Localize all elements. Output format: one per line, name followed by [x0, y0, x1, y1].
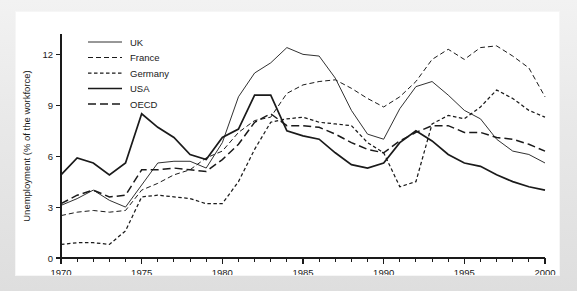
figure-frame: 036912 1970197519801985199019952000 UKFr…	[0, 0, 577, 291]
line-chart: 036912 1970197519801985199019952000 UKFr…	[16, 12, 559, 275]
x-tick-label: 1985	[292, 267, 313, 275]
legend-label-germany: Germany	[130, 68, 169, 79]
legend-label-france: France	[130, 52, 160, 63]
chart-legend: UKFranceGermanyUSAOECD	[88, 37, 169, 110]
series-line-oecd	[61, 114, 545, 204]
legend-label-usa: USA	[130, 83, 150, 94]
chart-panel: 036912 1970197519801985199019952000 UKFr…	[16, 12, 559, 275]
y-tick-label: 6	[48, 151, 53, 162]
legend-label-uk: UK	[130, 37, 144, 48]
x-tick-label: 1990	[373, 267, 394, 275]
y-axis-title: Unemployment (% of the workforce)	[21, 70, 32, 222]
x-tick-label: 1975	[131, 267, 152, 275]
x-axis: 1970197519801985199019952000	[50, 258, 555, 275]
y-tick-label: 9	[48, 100, 53, 111]
y-tick-label: 0	[48, 253, 53, 264]
legend-label-oecd: OECD	[130, 99, 158, 110]
series-line-germany	[61, 90, 545, 244]
x-tick-label: 1970	[50, 267, 71, 275]
x-tick-label: 1980	[212, 267, 233, 275]
x-tick-label: 1995	[454, 267, 475, 275]
y-tick-label: 3	[48, 202, 53, 213]
y-axis: 036912	[42, 34, 61, 264]
y-tick-label: 12	[42, 49, 53, 60]
x-tick-label: 2000	[534, 267, 555, 275]
